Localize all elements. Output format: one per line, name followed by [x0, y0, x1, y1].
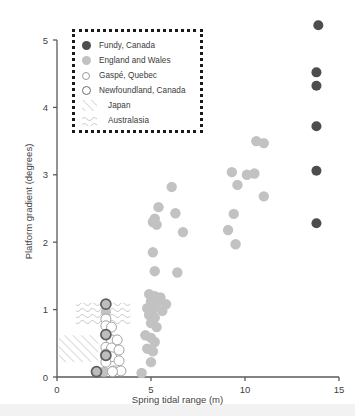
data-point — [114, 356, 124, 366]
data-point — [311, 121, 321, 131]
data-point — [313, 20, 323, 30]
legend-marker-thick-ring-circle-icon — [82, 84, 99, 97]
data-point — [259, 191, 269, 201]
data-point — [223, 225, 233, 235]
data-point — [311, 166, 321, 176]
data-point — [101, 330, 111, 340]
data-point — [311, 81, 321, 91]
data-point — [91, 367, 101, 377]
legend-item-gaspe: Gaspé, Quebec — [82, 68, 193, 83]
data-point — [146, 357, 156, 367]
legend-marker-diagonal-hatch-icon — [82, 99, 99, 112]
legend-label-newfoundland: Newfoundland, Canada — [99, 86, 186, 95]
data-point — [166, 182, 176, 192]
legend-item-japan: Japan — [82, 98, 193, 113]
data-point — [249, 168, 259, 178]
data-point — [151, 322, 161, 332]
legend-label-australasia: Australasia — [108, 116, 149, 125]
data-point — [311, 67, 321, 77]
data-point — [136, 368, 146, 378]
legend-item-newfoundland: Newfoundland, Canada — [82, 83, 193, 98]
legend-item-fundy: Fundy, Canada — [82, 38, 193, 53]
y-tick-label: 3 — [43, 169, 48, 180]
legend-label-gaspe: Gaspé, Quebec — [99, 71, 157, 80]
data-point — [101, 350, 111, 360]
chart-legend: Fundy, Canada England and Wales Gaspé, Q… — [72, 29, 203, 133]
y-tick-label: 5 — [43, 35, 48, 46]
data-point — [311, 218, 321, 228]
legend-marker-filled-dark-circle-icon — [82, 39, 99, 52]
chart-figure: 051015012345 Fundy, Canada England and W… — [0, 0, 355, 416]
y-tick-label: 1 — [43, 304, 48, 315]
data-point — [148, 346, 158, 356]
y-tick-label: 2 — [43, 237, 48, 248]
data-point — [259, 138, 269, 148]
legend-marker-filled-gray-circle-icon — [82, 54, 99, 67]
y-tick-label: 0 — [43, 372, 48, 383]
legend-item-england-and-wales: England and Wales — [82, 53, 193, 68]
data-point — [151, 219, 161, 229]
series-fundy-canada — [311, 20, 323, 228]
data-point — [232, 180, 242, 190]
legend-marker-wavy-hatch-icon — [82, 114, 99, 127]
x-axis-label: Spring tidal range (m) — [0, 394, 355, 405]
data-point — [229, 209, 239, 219]
data-point — [148, 247, 158, 257]
region-japan — [59, 335, 98, 362]
data-point — [170, 208, 180, 218]
legend-label-japan: Japan — [108, 101, 131, 110]
data-point — [150, 266, 160, 276]
y-axis-label: Platform gradient (degrees) — [23, 112, 34, 292]
legend-item-australasia: Australasia — [82, 113, 193, 128]
legend-label-england-and-wales: England and Wales — [99, 56, 171, 65]
data-point — [230, 239, 240, 249]
data-point — [107, 367, 117, 377]
data-point — [153, 202, 163, 212]
data-point — [178, 227, 188, 237]
legend-label-fundy: Fundy, Canada — [99, 41, 155, 50]
data-point — [101, 299, 111, 309]
data-point — [172, 267, 182, 277]
y-tick-label: 4 — [43, 102, 48, 113]
data-point — [227, 167, 237, 177]
legend-marker-open-circle-icon — [82, 69, 99, 82]
